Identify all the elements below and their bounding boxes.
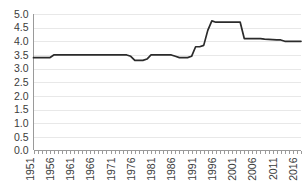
y-tick-label: 3.0 bbox=[14, 62, 29, 74]
y-tick-label: 5.0 bbox=[14, 8, 29, 20]
y-tick-label: 2.5 bbox=[14, 76, 29, 88]
y-tick-label: 4.0 bbox=[14, 35, 29, 47]
x-tick-label: 1996 bbox=[206, 157, 218, 181]
y-tick-label: 2.0 bbox=[14, 90, 29, 102]
x-axis-tick-labels: 1951195619611966197119761981198619911996… bbox=[24, 157, 299, 181]
y-tick-label: 3.5 bbox=[14, 49, 29, 61]
y-tick-label: 0.5 bbox=[14, 131, 29, 143]
gridlines bbox=[34, 15, 302, 138]
line-chart: 5.04.54.03.53.02.52.01.51.00.50.0 195119… bbox=[0, 0, 306, 193]
y-tick-label: 1.5 bbox=[14, 103, 29, 115]
x-tick-label: 1986 bbox=[165, 157, 177, 181]
x-tick-label: 2006 bbox=[246, 157, 258, 181]
y-tick-label: 1.0 bbox=[14, 117, 29, 129]
data-series-line bbox=[34, 21, 302, 61]
y-tick-label: 4.5 bbox=[14, 21, 29, 33]
x-tick-label: 1961 bbox=[64, 157, 76, 181]
y-tick-label: 0.0 bbox=[14, 144, 29, 156]
x-tick-label: 1956 bbox=[44, 157, 56, 181]
x-tick-label: 1971 bbox=[105, 157, 117, 181]
x-tick-label: 2001 bbox=[226, 157, 238, 181]
x-tick-label: 1966 bbox=[84, 157, 96, 181]
x-tick-label: 1991 bbox=[186, 157, 198, 181]
x-tick-label: 2011 bbox=[267, 157, 279, 180]
x-tick-label: 2016 bbox=[287, 157, 299, 181]
x-tick-label: 1951 bbox=[24, 157, 36, 181]
y-axis-tick-labels: 5.04.54.03.53.02.52.01.51.00.50.0 bbox=[14, 8, 29, 157]
x-tick-label: 1976 bbox=[125, 157, 137, 181]
chart-canvas: 5.04.54.03.53.02.52.01.51.00.50.0 195119… bbox=[0, 0, 306, 193]
x-tick-label: 1981 bbox=[145, 157, 157, 181]
